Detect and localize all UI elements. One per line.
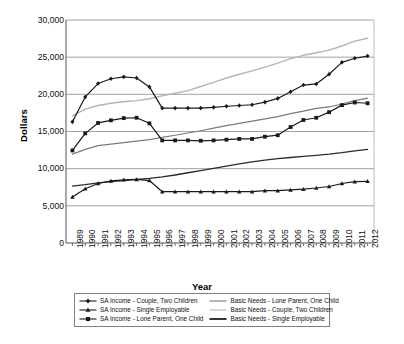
line-swatch bbox=[209, 306, 227, 314]
diamond-marker bbox=[79, 297, 97, 305]
data-point-marker bbox=[301, 83, 305, 88]
legend-item-label: Basic Needs - Single Employable bbox=[230, 315, 325, 323]
data-point-marker bbox=[250, 102, 254, 107]
data-point-marker bbox=[199, 139, 203, 143]
y-axis-tick-label: 5,000 bbox=[24, 202, 64, 211]
data-point-marker bbox=[314, 116, 318, 120]
data-point-marker bbox=[148, 121, 152, 125]
chart-container: Dollars 05,00010,00015,00020,00025,00030… bbox=[0, 0, 404, 344]
data-point-marker bbox=[250, 137, 254, 141]
legend-item[interactable]: Basic Needs - Single Employable bbox=[209, 315, 338, 323]
y-axis-tick-labels: 05,00010,00015,00020,00025,00030,000 bbox=[22, 0, 64, 260]
x-axis-tick-label: 2000 bbox=[217, 229, 225, 248]
data-point-marker bbox=[160, 139, 164, 143]
data-point-marker bbox=[122, 116, 126, 120]
data-point-marker bbox=[276, 133, 280, 137]
legend-item[interactable]: Basic Needs - Couple, Two Children bbox=[209, 306, 338, 314]
x-axis-tick-label: 1991 bbox=[101, 229, 109, 248]
legend-item-label: Basic Needs - Lone Parent, One Child bbox=[230, 297, 338, 305]
data-point-marker bbox=[276, 96, 280, 101]
series-sa-income-single-employable bbox=[70, 177, 370, 198]
data-point-marker bbox=[237, 103, 241, 108]
legend-item-label: SA Income - Couple, Two Children bbox=[100, 297, 198, 305]
legend-item[interactable]: Basic Needs - Lone Parent, One Child bbox=[209, 297, 338, 305]
x-axis-tick-label: 1994 bbox=[140, 229, 148, 248]
data-point-marker bbox=[122, 75, 126, 80]
data-point-marker bbox=[366, 54, 370, 59]
x-axis-tick-label: 1998 bbox=[191, 229, 199, 248]
x-axis-tick-label: 2002 bbox=[242, 229, 250, 248]
data-point-marker bbox=[289, 89, 293, 94]
data-point-marker bbox=[96, 121, 100, 125]
x-axis-tick-label: 2006 bbox=[294, 229, 302, 248]
series-layer bbox=[70, 38, 370, 199]
x-axis-tick-label: 2001 bbox=[230, 229, 238, 248]
x-axis-tick-label: 1995 bbox=[153, 229, 161, 248]
y-axis-tick-label: 20,000 bbox=[24, 90, 64, 99]
x-axis-tick-label: 2011 bbox=[358, 230, 366, 248]
legend-item-label: SA Income - Lone Parent, One Child bbox=[100, 315, 203, 323]
y-axis-tick-label: 10,000 bbox=[24, 164, 64, 173]
data-point-marker bbox=[109, 76, 113, 81]
data-point-marker bbox=[71, 149, 75, 153]
y-axis-tick-label: 15,000 bbox=[24, 127, 64, 136]
y-axis-tick-label: 0 bbox=[24, 239, 64, 248]
data-point-marker bbox=[212, 139, 216, 143]
data-point-marker bbox=[263, 135, 267, 139]
data-point-marker bbox=[340, 103, 344, 107]
x-axis-tick-label: 1992 bbox=[114, 229, 122, 248]
data-point-marker bbox=[186, 139, 190, 143]
x-axis-tick-label: 2005 bbox=[281, 229, 289, 248]
data-point-marker bbox=[366, 101, 370, 105]
data-point-marker bbox=[237, 137, 241, 141]
legend-item-label: Basic Needs - Couple, Two Children bbox=[230, 306, 333, 314]
line-swatch bbox=[209, 315, 227, 323]
data-point-marker bbox=[83, 131, 87, 135]
line-swatch bbox=[209, 297, 227, 305]
data-point-marker bbox=[212, 105, 216, 110]
legend-item-label: SA Income - Single Employable bbox=[100, 306, 190, 314]
data-point-marker bbox=[302, 118, 306, 122]
data-point-marker bbox=[225, 138, 229, 142]
x-axis-tick-label: 1990 bbox=[88, 229, 96, 248]
x-axis-tick-label: 2010 bbox=[345, 229, 353, 248]
x-axis-tick-label: 2004 bbox=[268, 229, 276, 248]
x-axis-tick-label: 1997 bbox=[178, 229, 186, 248]
x-axis-tick-label: 2009 bbox=[332, 229, 340, 248]
data-point-marker bbox=[289, 125, 293, 129]
data-point-marker bbox=[173, 106, 177, 111]
x-axis-tick-label: 2007 bbox=[307, 229, 315, 248]
legend-item[interactable]: SA Income - Couple, Two Children bbox=[79, 297, 203, 305]
triangle-marker bbox=[79, 306, 97, 314]
x-axis-tick-label: 2012 bbox=[371, 229, 379, 248]
data-point-marker bbox=[224, 104, 228, 109]
y-axis-tick-label: 25,000 bbox=[24, 53, 64, 62]
data-point-marker bbox=[109, 118, 113, 122]
legend-item[interactable]: SA Income - Single Employable bbox=[79, 306, 203, 314]
x-axis-tick-label: 1996 bbox=[165, 229, 173, 248]
x-axis-tick-label: 1989 bbox=[76, 229, 84, 248]
x-axis-tick-label: 1993 bbox=[127, 229, 135, 248]
legend-item[interactable]: SA Income - Lone Parent, One Child bbox=[79, 315, 203, 323]
chart-legend: SA Income - Couple, Two ChildrenBasic Ne… bbox=[74, 293, 330, 327]
x-axis-tick-label: 1999 bbox=[204, 229, 212, 248]
square-marker bbox=[79, 315, 97, 323]
x-axis-tick-label: 2008 bbox=[319, 229, 327, 248]
data-point-marker bbox=[327, 110, 331, 114]
data-point-marker bbox=[199, 106, 203, 111]
data-point-marker bbox=[353, 101, 357, 105]
data-point-marker bbox=[135, 116, 139, 120]
x-axis-tick-label: 2003 bbox=[255, 229, 263, 248]
series-basic-needs-couple-two-children bbox=[72, 38, 367, 116]
data-point-marker bbox=[173, 139, 177, 143]
x-axis-title: Year bbox=[0, 281, 404, 292]
data-point-marker bbox=[186, 106, 190, 111]
data-point-marker bbox=[353, 56, 357, 61]
data-point-marker bbox=[263, 100, 267, 105]
y-axis-tick-label: 30,000 bbox=[24, 16, 64, 25]
